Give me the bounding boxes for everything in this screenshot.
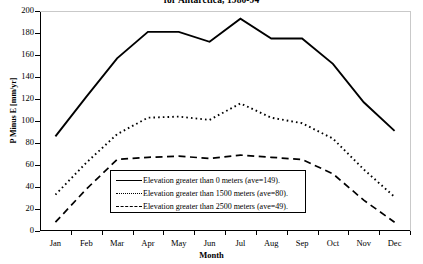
x-axis-tick bbox=[256, 231, 257, 235]
y-axis-tick bbox=[35, 143, 40, 144]
x-axis-title: Month bbox=[0, 250, 423, 260]
x-axis-tick-label: Jan bbox=[38, 238, 72, 248]
x-axis-tick bbox=[71, 231, 72, 235]
y-axis-tick bbox=[35, 55, 40, 56]
solid-line-key-icon bbox=[115, 176, 143, 186]
chart-root: for Antarctica, 1980-94 P Minus E [mm/yr… bbox=[0, 0, 423, 264]
y-axis-tick bbox=[35, 165, 40, 166]
series-line-elev0 bbox=[55, 19, 394, 137]
x-axis-tick-label: Nov bbox=[347, 238, 381, 248]
x-axis-tick-label: May bbox=[162, 238, 196, 248]
y-axis-tick bbox=[35, 187, 40, 188]
x-axis-tick-label: Dec bbox=[378, 238, 412, 248]
x-axis-tick-label: Jun bbox=[193, 238, 227, 248]
x-axis-tick-label: Oct bbox=[316, 238, 350, 248]
x-axis-tick-label: Apr bbox=[131, 238, 165, 248]
x-axis-tick bbox=[348, 231, 349, 235]
legend-row-elev0: Elevation greater than 0 meters (ave=149… bbox=[115, 174, 301, 187]
legend-label-elev0: Elevation greater than 0 meters (ave=149… bbox=[143, 176, 280, 186]
x-axis-tick bbox=[287, 231, 288, 235]
x-axis-tick-label: Jul bbox=[223, 238, 257, 248]
legend-label-elev1500: Elevation greater than 1500 meters (ave=… bbox=[143, 189, 288, 199]
x-axis-tick bbox=[102, 231, 103, 235]
x-axis-tick bbox=[133, 231, 134, 235]
legend-label-elev2500: Elevation greater than 2500 meters (ave=… bbox=[143, 202, 288, 212]
chart-legend: Elevation greater than 0 meters (ave=149… bbox=[110, 170, 306, 213]
y-axis-tick bbox=[35, 11, 40, 12]
x-axis-tick bbox=[379, 231, 380, 235]
legend-row-elev2500: Elevation greater than 2500 meters (ave=… bbox=[115, 200, 301, 213]
dashed-line-key-icon bbox=[115, 202, 143, 212]
x-axis-tick-label: Sep bbox=[285, 238, 319, 248]
x-axis-tick-label: Aug bbox=[254, 238, 288, 248]
y-axis-tick bbox=[35, 99, 40, 100]
y-axis-tick bbox=[35, 231, 40, 232]
y-axis-tick bbox=[35, 77, 40, 78]
dotted-line-key-icon bbox=[115, 189, 143, 199]
x-axis-tick bbox=[225, 231, 226, 235]
x-axis-tick bbox=[318, 231, 319, 235]
x-axis-tick-label: Mar bbox=[100, 238, 134, 248]
y-axis-tick bbox=[35, 33, 40, 34]
y-axis-tick bbox=[35, 209, 40, 210]
x-axis-tick bbox=[194, 231, 195, 235]
x-axis-tick bbox=[410, 231, 411, 235]
legend-row-elev1500: Elevation greater than 1500 meters (ave=… bbox=[115, 187, 301, 200]
x-axis-tick bbox=[163, 231, 164, 235]
y-axis-tick bbox=[35, 121, 40, 122]
series-layer bbox=[0, 0, 423, 264]
x-axis-tick-label: Feb bbox=[69, 238, 103, 248]
